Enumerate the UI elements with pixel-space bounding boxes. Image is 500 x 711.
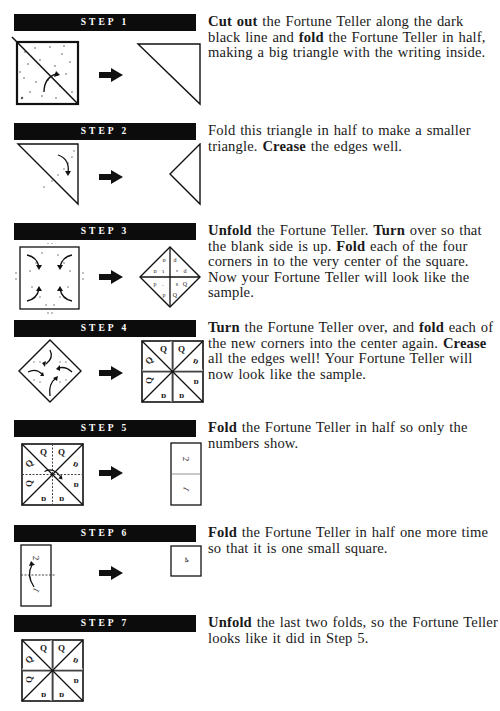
step-7-figure: Q Q Q ɒ Q ɒ ɒ ɒ bbox=[0, 635, 205, 705]
svg-text:Q: Q bbox=[144, 377, 154, 384]
step-3-figure: ɒd ɒɿᵖd pᵣsQ pQ bbox=[0, 243, 205, 315]
svg-text:ɒ: ɒ bbox=[153, 268, 156, 274]
step-1-header: STEP 1 bbox=[14, 14, 196, 31]
svg-text:Q: Q bbox=[58, 447, 65, 457]
svg-text:2: 2 bbox=[31, 556, 41, 561]
svg-text:ɒ: ɒ bbox=[41, 689, 46, 699]
svg-text:Q: Q bbox=[178, 344, 185, 354]
svg-text:ɒ: ɒ bbox=[59, 689, 64, 699]
step-5-description: Fold the Fortune Teller in half so only … bbox=[208, 420, 498, 451]
step-3-arrow-icon bbox=[99, 270, 123, 284]
step-4-header: STEP 4 bbox=[14, 320, 196, 337]
step-5-figure: Q Q Q ɒ Q ɒ ɒ ɒ 2 1 bbox=[0, 436, 205, 516]
svg-text:Q: Q bbox=[24, 480, 34, 487]
step-1-figure bbox=[0, 34, 205, 114]
step-2-header: STEP 2 bbox=[14, 123, 196, 140]
step-2-arrow-icon bbox=[99, 170, 123, 184]
step-6-arrow-icon bbox=[99, 566, 123, 580]
svg-text:Q: Q bbox=[183, 281, 188, 287]
svg-text:p: p bbox=[163, 292, 166, 298]
step-1-arrow-icon bbox=[99, 68, 123, 82]
step-6-figure: 2 1 4 bbox=[0, 543, 205, 611]
svg-text:d: d bbox=[184, 268, 187, 274]
svg-text:ᵖ: ᵖ bbox=[176, 268, 178, 274]
step-3-description: Unfold the Fortune Teller. Turn over so … bbox=[208, 223, 498, 301]
step-4-figure: Q Q Q ɒ Q ɒ ɒ ɒ bbox=[0, 338, 205, 410]
step-7-description: Unfold the last two folds, so the Fortun… bbox=[208, 615, 498, 646]
svg-text:Q: Q bbox=[40, 447, 47, 457]
svg-text:p: p bbox=[154, 281, 157, 287]
step-6-header: STEP 6 bbox=[14, 525, 196, 542]
svg-text:ɒ: ɒ bbox=[179, 390, 184, 400]
step-5-folding-square: Q Q Q ɒ Q ɒ ɒ ɒ bbox=[20, 442, 85, 507]
fortune-teller-square-diagram: Q Q Q ɒ Q ɒ ɒ ɒ bbox=[20, 442, 85, 507]
svg-text:ɒ: ɒ bbox=[41, 493, 46, 503]
svg-text:ɒ: ɒ bbox=[73, 675, 78, 685]
step-7-sample: Q Q Q ɒ Q ɒ ɒ ɒ bbox=[20, 638, 85, 703]
step-4-description: Turn the Fortune Teller over, and fold e… bbox=[208, 320, 498, 382]
step-5-numbers-rectangle: 2 1 bbox=[170, 442, 202, 506]
step-5-arrow-icon bbox=[99, 466, 123, 480]
svg-text:Q: Q bbox=[160, 344, 167, 354]
svg-text:d: d bbox=[174, 257, 177, 263]
step-3-header: STEP 3 bbox=[14, 223, 196, 240]
svg-text:Q: Q bbox=[58, 643, 65, 653]
svg-text:Q: Q bbox=[173, 292, 178, 298]
svg-text:Q: Q bbox=[24, 676, 34, 683]
svg-text:ɒ: ɒ bbox=[73, 479, 78, 489]
glyph: ɒ bbox=[162, 257, 165, 263]
step-4-sample: Q Q Q ɒ Q ɒ ɒ ɒ bbox=[140, 339, 205, 404]
step-5-header: STEP 5 bbox=[14, 420, 196, 437]
svg-text:Q: Q bbox=[40, 643, 47, 653]
svg-text:ɿ: ɿ bbox=[162, 268, 164, 274]
step-2-description: Fold this triangle in half to make a sma… bbox=[208, 123, 498, 154]
step-7-header: STEP 7 bbox=[14, 615, 196, 632]
step-6-description: Fold the Fortune Teller in half one more… bbox=[208, 525, 498, 556]
svg-text:ɒ: ɒ bbox=[59, 493, 64, 503]
svg-text:ɒ: ɒ bbox=[161, 390, 166, 400]
svg-text:2: 2 bbox=[181, 457, 191, 462]
step-1-description: Cut out the Fortune Teller along the dar… bbox=[208, 14, 498, 61]
fortune-teller-square-diagram: Q Q Q ɒ Q ɒ ɒ ɒ bbox=[140, 339, 205, 404]
svg-text:ɒ: ɒ bbox=[193, 376, 198, 386]
fortune-teller-square-diagram: Q Q Q ɒ Q ɒ ɒ ɒ bbox=[20, 638, 85, 703]
step-4-arrow-icon bbox=[99, 366, 123, 380]
step-2-figure bbox=[0, 143, 205, 211]
